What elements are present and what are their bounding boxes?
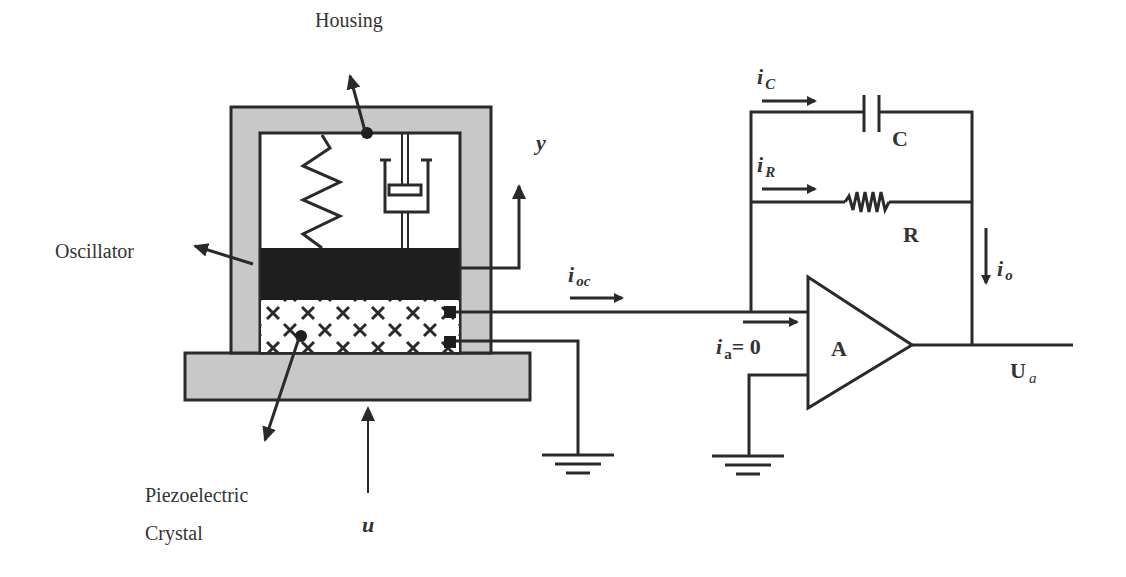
resistor-icon — [845, 192, 889, 212]
piezo-label-line2: Crystal — [145, 522, 203, 545]
resistor-label: R — [903, 222, 920, 247]
electrode-top — [444, 306, 456, 318]
ground-icon-amp — [712, 456, 784, 474]
ground-wire-amp — [749, 375, 808, 456]
oscillator-label: Oscillator — [55, 240, 134, 262]
y-label: y — [533, 130, 546, 155]
i-o-label: io — [997, 256, 1013, 283]
oscillator-mass — [261, 248, 459, 300]
i-r-label: iR — [757, 152, 775, 180]
amplifier-icon — [808, 277, 912, 408]
amplifier-label: A — [831, 336, 847, 361]
sensor-assembly — [185, 107, 530, 400]
capacitor-icon — [864, 95, 879, 132]
electrode-bottom — [444, 336, 456, 348]
i-c-label: iC — [757, 64, 776, 92]
i-a-label: ia= 0 — [716, 334, 761, 362]
u-label: u — [362, 512, 374, 537]
output-voltage-label: Ua — [1010, 358, 1036, 386]
base-plate — [185, 353, 530, 400]
ground-icon-sensor — [542, 455, 614, 473]
capacitor-label: C — [892, 126, 908, 151]
piezo-charge-amplifier-diagram: Housing Oscillator Piezoelectric Crystal… — [0, 0, 1126, 577]
i-oc-label: ioc — [568, 262, 591, 289]
housing-label: Housing — [315, 9, 383, 32]
piezo-label-line1: Piezoelectric — [145, 484, 248, 506]
